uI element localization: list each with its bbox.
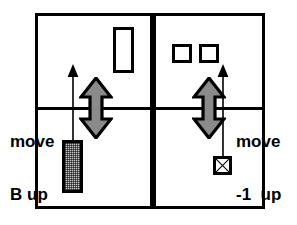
caption-right-line1: move [236, 133, 281, 151]
double-arrow-right [192, 77, 226, 139]
caption-left-line1: move [10, 133, 54, 151]
open-tall-rectangle-left [113, 27, 134, 73]
crossed-square-right [213, 156, 232, 175]
cross-lines-icon [216, 159, 229, 172]
double-arrow-left [79, 77, 113, 139]
caption-right: move -1 up [236, 98, 281, 225]
open-square-left [172, 44, 192, 63]
caption-right-line2: -1 up [236, 186, 281, 204]
diagram-canvas: move B up move -1 up [0, 0, 297, 225]
thin-up-arrow-left [66, 64, 80, 142]
caption-left: move B up [10, 98, 54, 225]
caption-left-line2: B up [10, 186, 54, 204]
open-square-right [199, 44, 219, 63]
panel-divider [150, 13, 156, 209]
hatched-tall-rectangle-left [62, 140, 83, 193]
